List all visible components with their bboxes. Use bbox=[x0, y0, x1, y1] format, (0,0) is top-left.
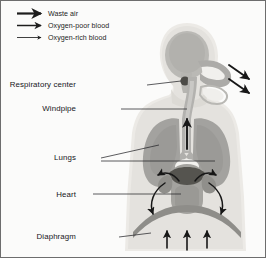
label-lungs: Lungs bbox=[54, 153, 76, 162]
legend-label-2: Oxygen-rich blood bbox=[48, 34, 106, 42]
label-respiratory-center: Respiratory center bbox=[10, 80, 77, 89]
face-airway-group bbox=[198, 60, 231, 104]
legend-item-oxygen-poor-blood: Oxygen-poor blood bbox=[17, 22, 109, 30]
diagram-figure: Respiratory center Windpipe Lungs Heart … bbox=[0, 0, 266, 258]
legend-label-1: Oxygen-poor blood bbox=[48, 22, 109, 30]
legend-label-0: Waste air bbox=[48, 10, 79, 18]
labels-group: Respiratory center Windpipe Lungs Heart … bbox=[10, 80, 77, 241]
label-diaphragm: Diaphragm bbox=[37, 232, 77, 241]
legend-item-oxygen-rich-blood: Oxygen-rich blood bbox=[17, 34, 106, 42]
respiratory-diagram-art: Respiratory center Windpipe Lungs Heart … bbox=[1, 1, 266, 258]
legend-item-waste-air: Waste air bbox=[17, 10, 79, 18]
label-heart: Heart bbox=[56, 190, 77, 199]
nasal-arrow-lower bbox=[229, 79, 249, 93]
nasal-arrow-upper bbox=[229, 65, 249, 79]
label-windpipe: Windpipe bbox=[42, 104, 76, 113]
brain-inner-shade bbox=[169, 33, 205, 73]
legend: Waste air Oxygen-poor blood Oxygen-rich … bbox=[17, 10, 109, 42]
